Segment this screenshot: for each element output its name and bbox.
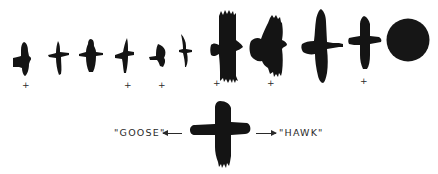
bird-silhouette-1-icon — [10, 40, 34, 78]
bird-silhouette-4-icon — [114, 37, 136, 75]
plus-marker-10: + — [360, 77, 368, 86]
bird-silhouette-10-icon — [347, 15, 383, 71]
circle-silhouette-icon — [385, 17, 431, 63]
hawk-label: "HAWK" — [279, 128, 324, 138]
left-arrow-icon — [163, 133, 182, 134]
bird-silhouette-6-icon — [178, 33, 194, 69]
goose-label: "GOOSE" — [114, 128, 166, 138]
plus-marker-8: + — [267, 79, 275, 88]
plus-marker-1: + — [22, 81, 30, 90]
bird-silhouette-9-icon — [296, 8, 346, 84]
bird-silhouette-8-icon — [248, 14, 290, 80]
bird-silhouette-2-icon — [47, 40, 71, 76]
bird-silhouette-5-icon — [148, 43, 168, 69]
goose-hawk-model-silhouette-icon — [189, 100, 253, 170]
bird-silhouette-figure: + + + + + + "GOOSE" "HAWK" — [0, 0, 438, 174]
plus-marker-4: + — [124, 81, 132, 90]
bird-silhouette-3-icon — [78, 38, 104, 74]
right-arrow-icon — [256, 133, 276, 134]
plus-marker-5: + — [158, 81, 166, 90]
bird-silhouette-7-icon — [208, 10, 244, 84]
plus-marker-7: + — [213, 79, 221, 88]
